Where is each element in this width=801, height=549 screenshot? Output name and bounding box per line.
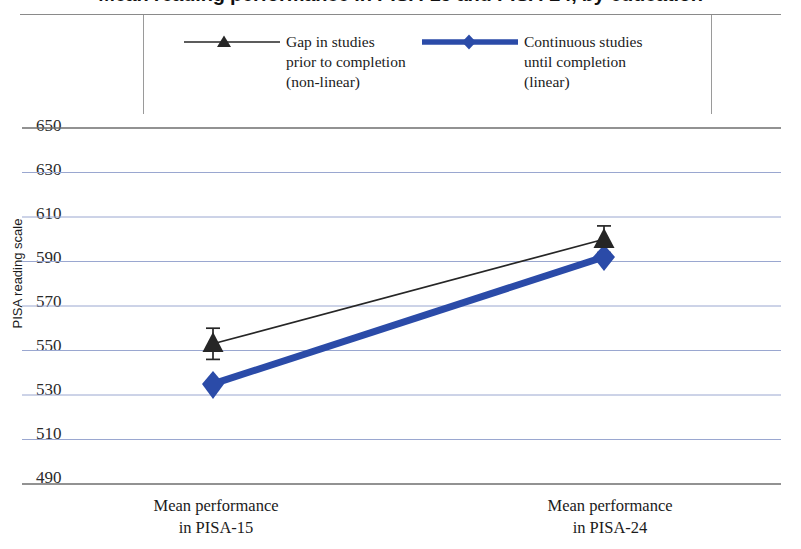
x-tick-label-pisa15: Mean performance in PISA-15 — [86, 495, 346, 539]
chart-title: Mean reading performance in PISA-15 and … — [0, 0, 801, 6]
diamond-marker-icon — [422, 33, 518, 51]
series-line-gap-in-studies — [213, 239, 604, 343]
data-point-gap-pisa24 — [594, 228, 615, 248]
legend-label-gap-in-studies: Gap in studies prior to completion (non-… — [286, 32, 406, 92]
legend-item-continuous-studies: Continuous studies until completion (lin… — [422, 32, 642, 92]
plot-area: PISA reading scale 650 630 610 590 570 5… — [0, 118, 801, 493]
legend-label-continuous-studies: Continuous studies until completion (lin… — [524, 32, 642, 92]
series-line-continuous-studies — [213, 257, 604, 384]
legend-inner-frame: Gap in studies prior to completion (non-… — [143, 15, 712, 114]
data-point-continuous-pisa24 — [593, 245, 615, 272]
legend-item-gap-in-studies: Gap in studies prior to completion (non-… — [184, 32, 406, 92]
chart-legend: Gap in studies prior to completion (non-… — [20, 14, 781, 114]
x-tick-label-pisa24: Mean performance in PISA-24 — [480, 495, 740, 539]
x-axis-labels: Mean performance in PISA-15 Mean perform… — [0, 495, 801, 549]
plot-canvas — [0, 118, 801, 493]
chart-figure: Mean reading performance in PISA-15 and … — [0, 0, 801, 549]
triangle-marker-icon — [184, 33, 280, 51]
